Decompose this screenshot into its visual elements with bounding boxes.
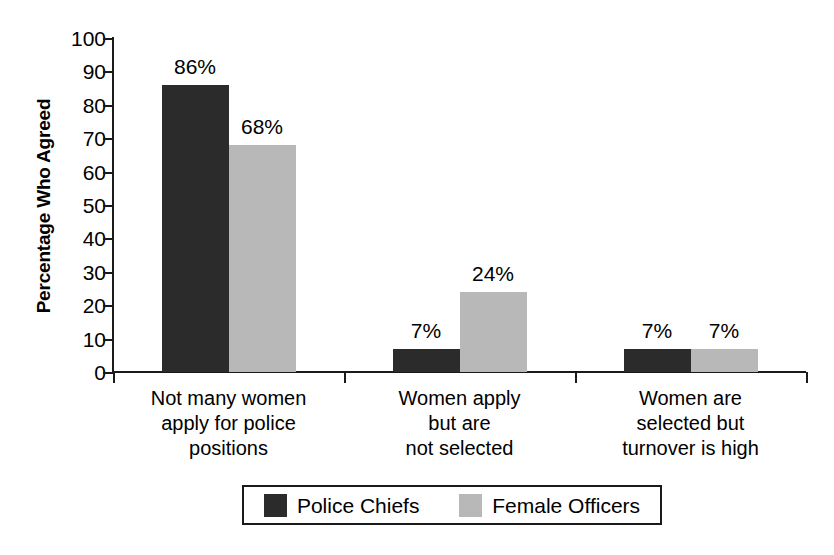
y-axis-tick-label: 90: [46, 61, 106, 82]
category-label-line: selected but: [575, 411, 806, 436]
y-axis-tick-label: 70: [46, 128, 106, 149]
y-axis-tick-label: 100: [46, 28, 106, 49]
bar-value-label: 24%: [440, 263, 547, 284]
y-axis-tick-label: 10: [46, 328, 106, 349]
y-axis-tick-label: 30: [46, 261, 106, 282]
bar-value-label: 86%: [142, 56, 249, 77]
category-label-line: Not many women: [113, 386, 344, 411]
y-axis-tick-label: 0: [46, 362, 106, 383]
legend-swatch-icon: [264, 494, 287, 517]
x-axis-tick-mark: [113, 372, 115, 383]
x-axis-tick-mark: [575, 372, 577, 383]
category-label-line: positions: [113, 436, 344, 461]
y-axis-tick-label: 60: [46, 161, 106, 182]
legend-swatch-icon: [459, 494, 482, 517]
bar-value-label: 68%: [209, 116, 316, 137]
bar-1-0: [229, 145, 296, 372]
y-axis-tick-label: 20: [46, 295, 106, 316]
bar-value-label: 7%: [373, 320, 480, 341]
y-axis-tick-label: 40: [46, 228, 106, 249]
x-axis-tick-mark: [806, 372, 808, 383]
y-axis-tick-labels: 1009080706050403020100: [46, 38, 106, 372]
category-label-line: Women are: [575, 386, 806, 411]
y-axis-tick-label: 80: [46, 94, 106, 115]
bar-value-label: 7%: [671, 320, 778, 341]
category-label-line: Women apply: [344, 386, 575, 411]
bar-1-2: [691, 349, 758, 372]
x-axis-category-label: Not many womenapply for policepositions: [113, 386, 344, 461]
x-axis-category-label: Women applybut arenot selected: [344, 386, 575, 461]
legend-item: Police Chiefs: [264, 494, 420, 517]
bar-chart: Percentage Who Agreed 100908070605040302…: [0, 0, 834, 555]
bar-0-2: [624, 349, 691, 372]
legend-label: Police Chiefs: [297, 495, 420, 516]
category-label-line: apply for police: [113, 411, 344, 436]
bar-0-1: [393, 349, 460, 372]
category-label-line: turnover is high: [575, 436, 806, 461]
category-label-line: but are: [344, 411, 575, 436]
y-axis-tick-label: 50: [46, 195, 106, 216]
category-label-line: not selected: [344, 436, 575, 461]
legend: Police ChiefsFemale Officers: [242, 485, 662, 525]
x-axis-category-label: Women areselected butturnover is high: [575, 386, 806, 461]
legend-label: Female Officers: [492, 495, 640, 516]
x-axis-tick-mark: [344, 372, 346, 383]
legend-item: Female Officers: [459, 494, 640, 517]
